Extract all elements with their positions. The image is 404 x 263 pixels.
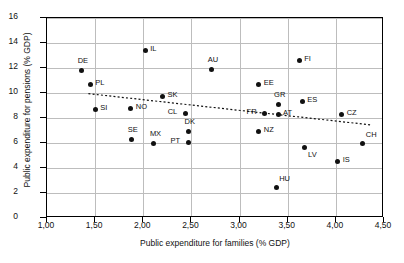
y-tick-label: 2: [0, 186, 18, 196]
y-tick-label: 14: [0, 36, 18, 46]
data-point-label: CZ: [347, 109, 357, 117]
data-point-label: NZ: [264, 126, 274, 134]
data-point: [300, 99, 305, 104]
data-point: [160, 94, 165, 99]
data-point: [186, 129, 191, 134]
data-point-label: HU: [279, 175, 290, 183]
data-point: [302, 145, 307, 150]
data-point: [335, 159, 340, 164]
data-point-label: CL: [168, 108, 178, 116]
data-point-label: DE: [78, 57, 88, 65]
data-point: [262, 111, 267, 116]
data-point-label: AU: [208, 56, 218, 64]
scatter-chart: Public expenditure for pensions (% GDP) …: [0, 0, 404, 263]
data-point: [274, 185, 279, 190]
data-point-label: PT: [171, 137, 181, 145]
y-tick-label: 8: [0, 111, 18, 121]
data-point-label: SI: [100, 104, 107, 112]
data-point: [183, 111, 188, 116]
data-point-label: NO: [136, 103, 147, 111]
data-point: [256, 129, 261, 134]
data-point: [93, 107, 98, 112]
data-point: [339, 112, 344, 117]
data-point-label: MX: [150, 130, 161, 138]
data-point-label: FR: [247, 108, 257, 116]
data-point: [276, 112, 281, 117]
data-point: [297, 58, 302, 63]
y-tick-label: 6: [0, 136, 18, 146]
y-tick-label: 4: [0, 161, 18, 171]
data-point-label: PL: [95, 79, 104, 87]
data-point-label: CH: [366, 131, 377, 139]
y-tick-label: 16: [0, 11, 18, 21]
plot-area: DEPLILAUFISINOSKEEGRESCLFRATCZSEMXDKPTNZ…: [46, 17, 383, 217]
data-point-label: FI: [304, 55, 311, 63]
data-point: [129, 137, 134, 142]
data-point: [79, 68, 84, 73]
data-point: [256, 82, 261, 87]
data-point: [209, 67, 214, 72]
trendline: [47, 18, 384, 218]
data-point-label: ES: [307, 96, 317, 104]
data-point: [88, 82, 93, 87]
y-axis-title: Public expenditure for pensions (% GDP): [22, 15, 32, 205]
data-point: [143, 48, 148, 53]
data-point-label: SE: [128, 126, 138, 134]
y-tick-label: 12: [0, 61, 18, 71]
data-point-label: LV: [308, 151, 317, 159]
data-point-label: IS: [343, 156, 350, 164]
data-point-label: SK: [168, 91, 178, 99]
data-point-label: AT: [283, 109, 292, 117]
data-point: [128, 106, 133, 111]
data-point: [151, 141, 156, 146]
data-point-label: DK: [185, 118, 195, 126]
y-tick-label: 0: [0, 211, 18, 221]
data-point: [276, 102, 281, 107]
data-point: [186, 140, 191, 145]
data-point-label: EE: [264, 79, 274, 87]
data-point-label: IL: [150, 45, 156, 53]
x-axis-title: Public expenditure for families (% GDP): [46, 238, 384, 248]
data-point-label: GR: [274, 91, 285, 99]
y-tick-label: 10: [0, 86, 18, 96]
data-point: [360, 141, 365, 146]
